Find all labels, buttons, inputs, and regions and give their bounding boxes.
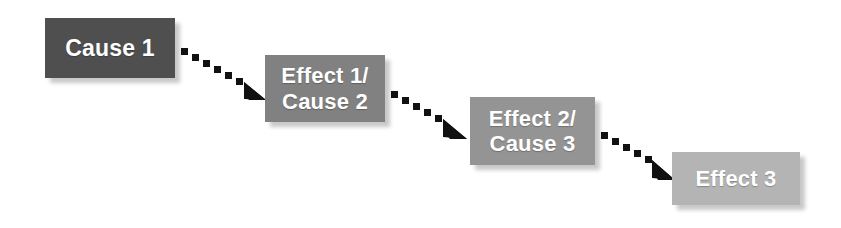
diagram-node-label: Effect 2/ Cause 3	[483, 106, 582, 157]
diagram-node-effect-1-cause-2[interactable]: Effect 1/ Cause 2	[265, 55, 385, 122]
diagram-node-effect-3[interactable]: Effect 3	[672, 152, 800, 205]
diagram-canvas: Cause 1 Effect 1/ Cause 2 Effect 2/ Caus…	[0, 0, 841, 228]
diagram-node-effect-2-cause-3[interactable]: Effect 2/ Cause 3	[470, 97, 595, 165]
connector-effect1-to-effect2	[391, 91, 467, 139]
diagram-node-label: Effect 3	[689, 166, 782, 191]
connector-effect2-to-effect3	[601, 132, 675, 180]
connector-cause1-to-effect1	[181, 48, 266, 100]
diagram-node-label: Effect 1/ Cause 2	[275, 63, 374, 114]
diagram-node-label: Cause 1	[59, 35, 161, 61]
diagram-node-cause-1[interactable]: Cause 1	[45, 18, 175, 78]
